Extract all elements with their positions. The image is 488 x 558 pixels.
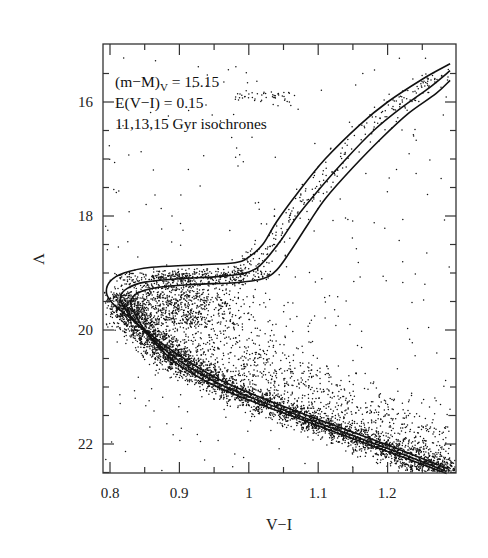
color-magnitude-diagram: 0.8 0.9 1 1.1 1.2 16 18 20 22 V−I V (m−M… [0,0,488,558]
y-axis-label: V [30,253,47,265]
annotation-block: (m−M)V = 15.15 E(V−I) = 0.15 11,13,15 Gy… [115,73,267,132]
y-tick-label: 20 [78,322,93,338]
x-tick-label: 1.1 [309,485,328,501]
distance-modulus-label: (m−M)V = 15.15 [115,73,219,93]
reddening-label: E(V−I) = 0.15 [115,94,204,112]
y-tick-label: 16 [78,94,94,110]
y-tick-label: 22 [78,436,93,452]
x-tick-label: 0.9 [170,485,189,501]
isochrone-ages-label: 11,13,15 Gyr isochrones [115,115,267,132]
x-tick-label: 0.8 [101,485,120,501]
x-axis-label: V−I [266,516,292,533]
x-tick-label: 1 [245,485,253,501]
x-tick-label: 1.2 [378,485,397,501]
y-tick-label: 18 [78,208,93,224]
